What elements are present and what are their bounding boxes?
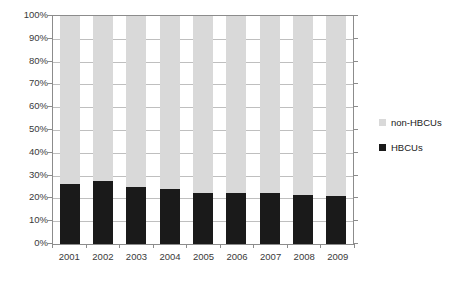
bar-segment-hbcus[interactable]: [293, 195, 313, 244]
chart-legend: non-HBCUsHBCUs: [379, 118, 459, 167]
y-axis-tick: [47, 243, 52, 244]
y-axis-tick: [47, 197, 52, 198]
y-axis-label: 30%: [6, 170, 48, 180]
y-axis-label: 50%: [6, 124, 48, 134]
x-axis-tick: [119, 244, 120, 248]
y-axis-tick: [47, 83, 52, 84]
x-axis-label: 2008: [294, 252, 314, 262]
x-axis-tick: [52, 244, 53, 248]
y-axis-tick-right: [353, 83, 358, 84]
bar-segment-hbcus[interactable]: [60, 184, 80, 244]
bar-segment-hbcus[interactable]: [160, 189, 180, 244]
y-axis-label: 0%: [6, 238, 48, 248]
x-axis-label: 2005: [193, 252, 213, 262]
y-axis-tick-right: [353, 15, 358, 16]
bar-segment-hbcus[interactable]: [260, 193, 280, 244]
bar-segment-hbcus[interactable]: [326, 196, 346, 244]
legend-swatch-icon: [379, 119, 386, 126]
y-axis-label: 100%: [6, 10, 48, 20]
x-axis-labels: 200120022003200420052006200720082009: [52, 252, 354, 262]
legend-label: HBCUs: [391, 143, 423, 153]
bar-group[interactable]: [260, 16, 280, 244]
x-axis-label: 2001: [59, 252, 79, 262]
y-axis-tick: [47, 106, 52, 107]
bar-segment-hbcus[interactable]: [126, 187, 146, 244]
legend-swatch-icon: [379, 144, 386, 151]
bar-group[interactable]: [126, 16, 146, 244]
bar-group[interactable]: [293, 16, 313, 244]
y-axis-tick-right: [353, 38, 358, 39]
y-axis-label: 40%: [6, 147, 48, 157]
y-axis-tick: [47, 175, 52, 176]
y-axis-tick: [47, 152, 52, 153]
y-axis-tick-right: [353, 129, 358, 130]
y-axis-tick: [47, 15, 52, 16]
y-axis-label: 60%: [6, 101, 48, 111]
y-axis-tick-right: [353, 175, 358, 176]
bar-segment-hbcus[interactable]: [226, 193, 246, 244]
y-axis-label: 90%: [6, 33, 48, 43]
x-axis-tick: [220, 244, 221, 248]
bar-segment-hbcus[interactable]: [93, 181, 113, 244]
x-axis-tick: [287, 244, 288, 248]
y-axis-tick: [47, 220, 52, 221]
y-axis-tick-right: [353, 243, 358, 244]
x-axis-tick: [320, 244, 321, 248]
x-axis-label: 2009: [327, 252, 347, 262]
y-axis-tick: [47, 129, 52, 130]
bar-group[interactable]: [226, 16, 246, 244]
bar-segment-non-hbcus[interactable]: [260, 16, 280, 193]
y-axis-tick-right: [353, 152, 358, 153]
y-axis-tick-right: [353, 106, 358, 107]
bar-group[interactable]: [160, 16, 180, 244]
x-axis-tick: [153, 244, 154, 248]
x-axis-tick: [186, 244, 187, 248]
y-axis-label: 70%: [6, 78, 48, 88]
bar-group[interactable]: [326, 16, 346, 244]
x-axis-tick: [86, 244, 87, 248]
x-axis-label: 2007: [260, 252, 280, 262]
bar-segment-non-hbcus[interactable]: [60, 16, 80, 184]
bar-segment-non-hbcus[interactable]: [326, 16, 346, 196]
bar-segment-non-hbcus[interactable]: [226, 16, 246, 193]
x-axis-label: 2002: [92, 252, 112, 262]
bar-segment-hbcus[interactable]: [193, 193, 213, 244]
y-axis-tick-right: [353, 61, 358, 62]
y-axis-label: 20%: [6, 192, 48, 202]
bar-chart: 200120022003200420052006200720082009 non…: [0, 0, 462, 281]
bar-segment-non-hbcus[interactable]: [126, 16, 146, 187]
y-axis-tick: [47, 61, 52, 62]
legend-item[interactable]: non-HBCUs: [379, 118, 459, 128]
legend-label: non-HBCUs: [391, 118, 442, 128]
bar-segment-non-hbcus[interactable]: [193, 16, 213, 193]
y-axis-tick-right: [353, 220, 358, 221]
y-axis-tick: [47, 38, 52, 39]
x-axis-label: 2003: [126, 252, 146, 262]
y-axis-label: 10%: [6, 215, 48, 225]
bar-group[interactable]: [60, 16, 80, 244]
bar-segment-non-hbcus[interactable]: [93, 16, 113, 181]
x-axis-label: 2006: [227, 252, 247, 262]
plot-area: [52, 15, 354, 245]
y-axis-label: 80%: [6, 56, 48, 66]
bar-segment-non-hbcus[interactable]: [293, 16, 313, 195]
legend-item[interactable]: HBCUs: [379, 143, 459, 153]
x-axis-tick: [354, 244, 355, 248]
bar-segment-non-hbcus[interactable]: [160, 16, 180, 189]
x-axis-label: 2004: [159, 252, 179, 262]
y-axis-tick-right: [353, 197, 358, 198]
x-axis-ticks: [52, 244, 354, 248]
x-axis-tick: [253, 244, 254, 248]
bar-group[interactable]: [93, 16, 113, 244]
bars-layer: [53, 16, 353, 244]
bar-group[interactable]: [193, 16, 213, 244]
